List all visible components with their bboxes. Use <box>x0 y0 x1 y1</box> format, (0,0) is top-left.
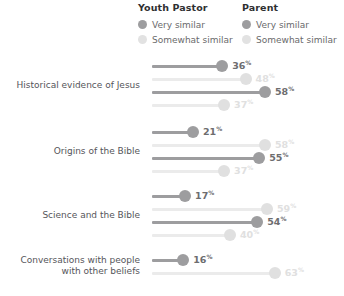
data-bar-row[interactable]: 36% <box>0 60 344 72</box>
data-bar-row[interactable]: 21% <box>0 126 344 138</box>
bar-value-label: 58% <box>275 85 294 97</box>
bar-track <box>152 170 224 173</box>
percent-sign: % <box>288 85 294 92</box>
bar-track <box>152 208 267 211</box>
bar-end-dot <box>253 152 265 164</box>
bar-end-dot <box>240 73 252 85</box>
percent-sign: % <box>290 202 296 209</box>
data-bar-row[interactable]: 55% <box>0 152 344 164</box>
bar-value-label: 16% <box>193 253 212 265</box>
bar-value-label: 17% <box>195 189 214 201</box>
bar-end-dot <box>177 254 189 266</box>
bar-track <box>152 91 265 94</box>
legend-item-label: Very similar <box>256 20 309 30</box>
legend-item-somewhat[interactable]: Somewhat similar <box>242 32 337 47</box>
bar-value-number: 54 <box>267 216 280 227</box>
bar-value-label: 58% <box>275 138 294 150</box>
bar-value-number: 48 <box>256 73 269 84</box>
bar-value-number: 37 <box>234 165 247 176</box>
bar-value-label: 54% <box>267 215 286 227</box>
bar-value-number: 40 <box>240 229 253 240</box>
bar-end-dot <box>259 139 271 151</box>
bar-end-dot <box>261 203 273 215</box>
bar-value-label: 21% <box>203 125 222 137</box>
bar-track <box>152 221 257 224</box>
bar-end-dot <box>224 229 236 241</box>
legend-dot-icon <box>242 20 251 29</box>
data-bar-row[interactable]: 48% <box>0 73 344 85</box>
legend-item-label: Somewhat similar <box>256 35 337 45</box>
legend-dot-icon <box>138 35 147 44</box>
bar-value-number: 16 <box>193 254 206 265</box>
bar-track <box>152 65 222 68</box>
data-bar-row[interactable]: 16% <box>0 254 344 266</box>
legend-dot-icon <box>242 35 251 44</box>
data-bar-row[interactable]: 40% <box>0 229 344 241</box>
bar-end-dot <box>187 126 199 138</box>
legend-item-somewhat[interactable]: Somewhat similar <box>138 32 233 47</box>
bar-end-dot <box>179 190 191 202</box>
percent-sign: % <box>269 72 275 79</box>
legend-group-parent: ParentVery similarSomewhat similar <box>242 0 337 47</box>
percent-sign: % <box>206 253 212 260</box>
legend-group-title: Parent <box>242 2 337 13</box>
percent-sign: % <box>216 125 222 132</box>
bar-value-label: 36% <box>232 59 251 71</box>
percent-sign: % <box>282 151 288 158</box>
legend-item-very[interactable]: Very similar <box>242 17 337 32</box>
bar-value-number: 55 <box>269 152 282 163</box>
chart-plot-area: Historical evidence of Jesus36%48%58%37%… <box>0 50 344 296</box>
percent-sign: % <box>245 59 251 66</box>
percent-sign: % <box>280 215 286 222</box>
bar-value-number: 17 <box>195 190 208 201</box>
chart-group: Origins of the Bible21%58%55%37% <box>0 126 344 178</box>
bar-end-dot <box>216 60 228 72</box>
bar-value-number: 21 <box>203 126 216 137</box>
bar-track <box>152 144 265 147</box>
bar-end-dot <box>259 86 271 98</box>
data-bar-row[interactable]: 59% <box>0 203 344 215</box>
bar-value-label: 48% <box>256 72 275 84</box>
legend-item-label: Somewhat similar <box>152 35 233 45</box>
bar-value-label: 59% <box>277 202 296 214</box>
chart-legend: Youth PastorVery similarSomewhat similar… <box>132 0 344 50</box>
percent-sign: % <box>247 98 253 105</box>
bar-value-number: 36 <box>232 60 245 71</box>
bar-end-dot <box>251 216 263 228</box>
percent-sign: % <box>288 138 294 145</box>
data-bar-row[interactable]: 63% <box>0 267 344 279</box>
bar-track <box>152 104 224 107</box>
chart-group: Conversations with peoplewith other beli… <box>0 254 344 280</box>
legend-item-very[interactable]: Very similar <box>138 17 233 32</box>
bar-value-label: 40% <box>240 228 259 240</box>
legend-group-title: Youth Pastor <box>138 2 233 13</box>
bar-track <box>152 234 230 237</box>
data-bar-row[interactable]: 37% <box>0 99 344 111</box>
percent-sign: % <box>298 266 304 273</box>
data-bar-row[interactable]: 37% <box>0 165 344 177</box>
bar-track <box>152 157 259 160</box>
percent-sign: % <box>247 164 253 171</box>
bar-end-dot <box>218 99 230 111</box>
bar-value-label: 37% <box>234 98 253 110</box>
chart-group: Historical evidence of Jesus36%48%58%37% <box>0 60 344 112</box>
legend-dot-icon <box>138 20 147 29</box>
percent-sign: % <box>253 228 259 235</box>
data-bar-row[interactable]: 17% <box>0 190 344 202</box>
data-bar-row[interactable]: 58% <box>0 139 344 151</box>
bar-end-dot <box>218 165 230 177</box>
bar-value-number: 37 <box>234 99 247 110</box>
percent-sign: % <box>208 189 214 196</box>
bar-value-label: 63% <box>285 266 304 278</box>
bar-value-number: 59 <box>277 203 290 214</box>
data-bar-row[interactable]: 54% <box>0 216 344 228</box>
chart-group: Science and the Bible17%59%54%40% <box>0 190 344 242</box>
bar-track <box>152 78 246 81</box>
bar-value-number: 63 <box>285 267 298 278</box>
bar-value-number: 58 <box>275 139 288 150</box>
data-bar-row[interactable]: 58% <box>0 86 344 98</box>
bar-value-number: 58 <box>275 86 288 97</box>
bar-track <box>152 272 275 275</box>
legend-group-youth-pastor: Youth PastorVery similarSomewhat similar <box>138 0 233 47</box>
legend-item-label: Very similar <box>152 20 205 30</box>
